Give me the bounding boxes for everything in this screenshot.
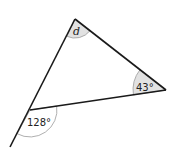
- side-top-right: [75, 19, 166, 90]
- side-right-bottom: [30, 90, 166, 110]
- angle-label-d: d: [73, 25, 80, 38]
- triangle-diagram: d 43° 128°: [0, 0, 175, 161]
- angle-label-128: 128°: [27, 117, 51, 128]
- angle-label-43: 43°: [136, 82, 154, 93]
